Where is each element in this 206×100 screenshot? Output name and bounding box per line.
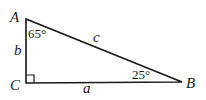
vertex-label-a: A (9, 9, 20, 25)
angle-label-a: 65° (28, 26, 46, 41)
vertex-label-b: B (186, 75, 195, 91)
triangle-outline (26, 19, 182, 83)
angle-label-b: 25° (132, 67, 150, 82)
right-triangle-diagram: A C B b c a 65° 25° (0, 0, 206, 100)
right-angle-marker (26, 75, 34, 83)
side-label-a: a (83, 80, 91, 96)
vertex-label-c: C (10, 77, 21, 93)
side-label-b: b (14, 42, 22, 58)
side-label-c: c (93, 29, 100, 45)
